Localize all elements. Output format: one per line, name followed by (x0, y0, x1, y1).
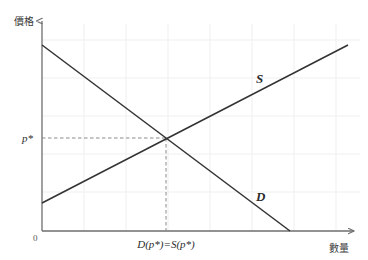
equilibrium-quantity-label: D(p*)=S(p*) (136, 238, 195, 251)
demand-curve-label: D (255, 189, 266, 204)
grid-vertical-lines (84, 24, 336, 231)
y-axis-label: 價格 (14, 15, 34, 27)
origin-label: 0 (33, 233, 38, 243)
supply-curve-label: S (256, 71, 263, 86)
supply-demand-chart: 價格 數量 0 p* D(p*)=S(p*) S D (0, 0, 368, 260)
supply-curve (42, 45, 348, 203)
equilibrium-price-label: p* (21, 132, 34, 144)
grid-lines (42, 24, 360, 231)
chart-canvas: 價格 數量 0 p* D(p*)=S(p*) S D (0, 0, 368, 260)
x-axis-label: 數量 (329, 242, 349, 254)
